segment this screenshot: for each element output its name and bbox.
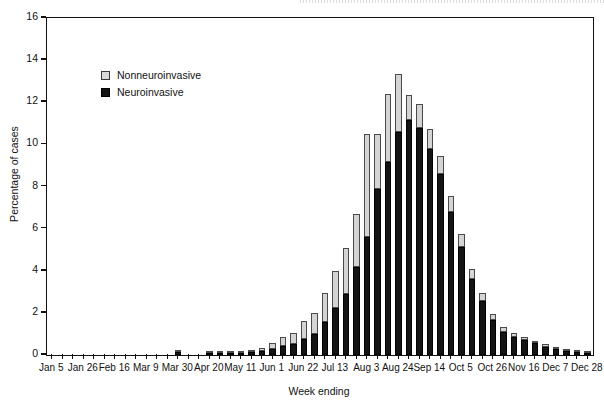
bar-segment-neuroinvasive [332, 308, 339, 355]
bar-segment-nonneuroinvasive [385, 94, 392, 162]
bar-segment-neuroinvasive [385, 162, 392, 355]
bar-sep-28 [448, 196, 455, 355]
bar-segment-nonneuroinvasive [427, 129, 434, 149]
bar-sep-21 [437, 156, 444, 355]
x-tick [408, 354, 409, 359]
x-tick [314, 354, 315, 359]
bar-segment-neuroinvasive [448, 212, 455, 355]
x-tick-label: Aug 3 [353, 361, 379, 374]
bar-segment-nonneuroinvasive [332, 271, 339, 308]
x-tick [177, 354, 178, 359]
bar-segment-neuroinvasive [301, 339, 308, 355]
bar-segment-nonneuroinvasive [563, 349, 570, 351]
x-tick [461, 354, 462, 359]
legend-item-nonneuroinvasive: Nonneuroinvasive [101, 68, 201, 83]
x-tick-label: Sep 14 [413, 361, 445, 374]
x-tick [471, 354, 472, 359]
bar-segment-neuroinvasive [353, 267, 360, 355]
x-tick [282, 354, 283, 359]
bar-segment-nonneuroinvasive [511, 333, 518, 337]
x-tick-label: Dec 28 [571, 361, 603, 374]
x-tick [135, 354, 136, 359]
x-tick-label: Mar 30 [162, 361, 193, 374]
x-tick-label: May 11 [224, 361, 256, 374]
bar-segment-nonneuroinvasive [364, 134, 371, 237]
bar-oct-5 [458, 234, 465, 355]
bar-segment-nonneuroinvasive [238, 351, 245, 353]
bar-segment-neuroinvasive [395, 132, 402, 355]
bar-segment-nonneuroinvasive [175, 350, 182, 352]
bar-jul-27 [353, 214, 360, 355]
bar-segment-nonneuroinvasive [353, 214, 360, 267]
bar-segment-nonneuroinvasive [343, 248, 350, 294]
bar-jul-6 [322, 293, 329, 355]
bar-segment-neuroinvasive [469, 279, 476, 355]
x-tick-label: Jan 5 [39, 361, 63, 374]
bar-segment-nonneuroinvasive [532, 341, 539, 343]
bar-segment-nonneuroinvasive [217, 351, 224, 353]
legend-label-nonneuroinvasive: Nonneuroinvasive [117, 69, 201, 82]
bar-segment-nonneuroinvasive [490, 314, 497, 320]
bar-segment-neuroinvasive [311, 334, 318, 355]
bar-segment-nonneuroinvasive [584, 351, 591, 353]
bar-segment-nonneuroinvasive [322, 293, 329, 322]
bar-segment-neuroinvasive [343, 294, 350, 355]
bar-jul-20 [343, 248, 350, 355]
bar-segment-neuroinvasive [322, 322, 329, 355]
x-tick-label: Oct 26 [478, 361, 507, 374]
x-tick [545, 354, 546, 359]
x-tick [198, 354, 199, 359]
bar-segment-neuroinvasive [500, 332, 507, 355]
bar-segment-nonneuroinvasive [469, 269, 476, 280]
chart-legend: Nonneuroinvasive Neuroinvasive [101, 68, 201, 102]
x-tick [272, 354, 273, 359]
x-tick [324, 354, 325, 359]
bar-segment-neuroinvasive [416, 128, 423, 355]
bar-oct-12 [469, 269, 476, 355]
x-tick [419, 354, 420, 359]
legend-label-neuroinvasive: Neuroinvasive [117, 86, 184, 99]
x-tick [209, 354, 210, 359]
y-tick-label: 6 [32, 221, 38, 234]
bar-segment-neuroinvasive [406, 120, 413, 355]
x-tick [251, 354, 252, 359]
bar-segment-neuroinvasive [479, 301, 486, 355]
bar-jun-8 [280, 337, 287, 355]
bar-segment-nonneuroinvasive [206, 351, 213, 353]
bar-aug-31 [406, 95, 413, 355]
x-tick [230, 354, 231, 359]
bar-segment-nonneuroinvasive [437, 156, 444, 174]
bar-segment-nonneuroinvasive [280, 337, 287, 345]
x-tick [387, 354, 388, 359]
bar-segment-neuroinvasive [490, 320, 497, 355]
x-tick [293, 354, 294, 359]
x-tick [345, 354, 346, 359]
x-tick [93, 354, 94, 359]
y-tick-label: 2 [32, 305, 38, 318]
x-tick [398, 354, 399, 359]
x-tick-label: Jun 1 [260, 361, 284, 374]
bar-segment-nonneuroinvasive [521, 337, 528, 340]
bar-segment-nonneuroinvasive [406, 95, 413, 120]
bar-nov-23 [532, 341, 539, 355]
bar-segment-nonneuroinvasive [479, 293, 486, 301]
bar-sep-7 [416, 104, 423, 355]
x-tick [51, 354, 52, 359]
x-tick [440, 354, 441, 359]
x-tick-label: Oct 5 [449, 361, 473, 374]
x-tick-label: Aug 24 [382, 361, 414, 374]
x-tick [83, 354, 84, 359]
x-tick [534, 354, 535, 359]
bar-jun-22 [301, 321, 308, 355]
x-tick-label: Jun 22 [288, 361, 318, 374]
x-tick [482, 354, 483, 359]
x-tick [366, 354, 367, 359]
x-tick [503, 354, 504, 359]
legend-swatch-neuroinvasive-icon [101, 88, 110, 97]
bar-segment-nonneuroinvasive [553, 347, 560, 349]
x-tick [219, 354, 220, 359]
x-tick [377, 354, 378, 359]
y-tick-label: 8 [32, 179, 38, 192]
y-tick-label: 12 [26, 94, 38, 107]
x-tick-label: Apr 20 [194, 361, 223, 374]
